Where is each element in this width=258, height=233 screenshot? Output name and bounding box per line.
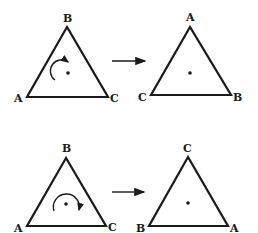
center-dot <box>66 71 70 75</box>
row2-after-triangle: C B A <box>136 142 239 233</box>
vertex-label-left: C <box>138 91 147 104</box>
vertex-label-left: B <box>136 222 145 233</box>
row2-before-triangle: B A C <box>13 142 117 233</box>
vertex-label-left: A <box>13 222 23 233</box>
vertex-label-top: B <box>63 12 72 25</box>
vertex-label-top: B <box>62 142 71 155</box>
center-dot <box>64 202 68 206</box>
vertex-label-top: A <box>185 11 195 24</box>
row1-after-triangle: A C B <box>138 11 242 104</box>
row1-before-triangle: B A C <box>13 12 119 105</box>
triangle-rotation-diagram: B A C A C B B A C C B A <box>0 0 258 233</box>
vertex-label-top: C <box>183 142 192 155</box>
vertex-label-right: A <box>229 222 239 233</box>
vertex-label-right: C <box>110 92 119 105</box>
center-dot <box>186 201 190 205</box>
curved-arrow-icon <box>50 60 68 80</box>
vertex-label-right: B <box>233 91 242 104</box>
vertex-label-left: A <box>13 92 23 105</box>
vertex-label-right: C <box>108 221 117 233</box>
center-dot <box>188 71 192 75</box>
